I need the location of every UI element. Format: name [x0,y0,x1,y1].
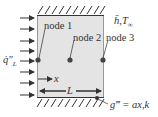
convection-subscript: ∞ [128,21,133,29]
node-1-dot [35,57,40,62]
heat-flux-label: q̇″L [3,55,17,68]
heat-flux-arrows [20,18,34,95]
generation-label: g‴ = ax,k [110,100,149,111]
node-3-label: node 3 [106,33,134,44]
convection-symbol: h̄,T [114,15,128,26]
node-1-label: node 1 [44,21,72,32]
top-insulation-hatch [37,6,105,16]
x-axis-label: x [54,74,59,85]
heat-flux-symbol: q̇″ [3,54,13,65]
bottom-insulation-hatch [37,98,104,108]
node-3-dot [100,57,105,62]
node-2-label: node 2 [73,33,101,44]
node-2-dot [67,57,72,62]
length-label: L [67,86,73,97]
convection-label: h̄,T∞ [114,16,133,29]
heat-flux-subscript: L [13,60,17,68]
